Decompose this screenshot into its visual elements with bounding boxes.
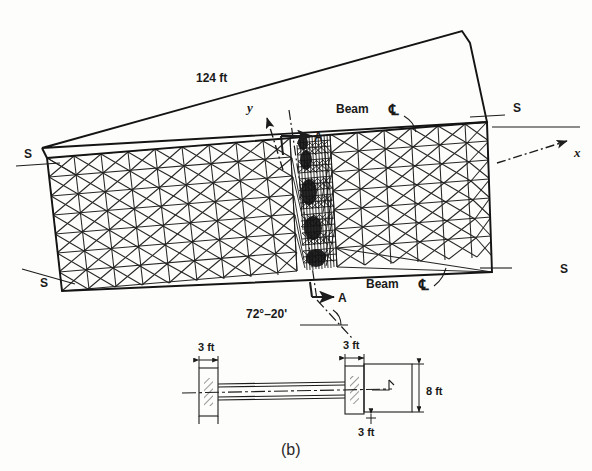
support-bottom-right-label: S bbox=[560, 262, 568, 276]
section-label-bottom: A bbox=[338, 291, 347, 305]
beam-label-bottom: Beam bbox=[366, 277, 399, 291]
skew-angle-label: 72°–20' bbox=[246, 307, 287, 321]
span-dimension-label: 124 ft bbox=[196, 71, 227, 85]
axis-x-label: x bbox=[573, 145, 581, 160]
dim-depth-8ft-label: 8 ft bbox=[426, 385, 443, 397]
dim-right-3ft-label: 3 ft bbox=[343, 339, 360, 351]
dim-left-3ft-label: 3 ft bbox=[198, 341, 215, 353]
support-top-left-label: S bbox=[24, 147, 32, 161]
centerline-symbol-top: ℄ bbox=[388, 101, 399, 118]
dim-bottom-3ft-label: 3 ft bbox=[358, 426, 375, 438]
support-top-right-label: S bbox=[513, 101, 521, 115]
beam-label-top: Beam bbox=[336, 102, 369, 116]
figure-root: S S S S 124 ft y x A A bbox=[0, 0, 592, 471]
support-bottom-left-label: S bbox=[40, 276, 48, 290]
centerline-symbol-bottom: ℄ bbox=[418, 276, 429, 293]
section-label-top: A bbox=[314, 130, 323, 144]
axis-y-label: y bbox=[245, 100, 253, 115]
figure-caption: (b) bbox=[281, 441, 301, 458]
